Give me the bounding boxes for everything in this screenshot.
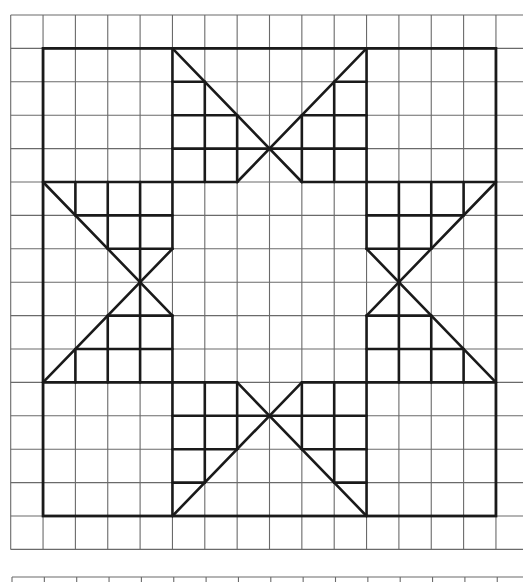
grid-paper (11, 15, 523, 549)
second-grid-paper (12, 577, 523, 582)
star-pattern-diagram (0, 0, 523, 582)
